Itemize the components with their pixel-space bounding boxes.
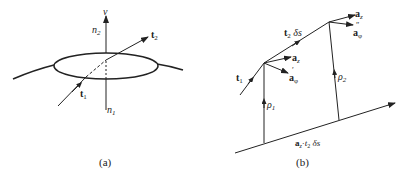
aphi2-vector xyxy=(329,22,353,25)
t1-arrow xyxy=(248,79,252,84)
rho1-label: ρ1 xyxy=(266,99,275,112)
aphi2-label: aφ″ xyxy=(353,21,362,40)
nu-label: ν xyxy=(103,6,108,17)
rho2-arrow xyxy=(334,72,335,78)
t1-arrow xyxy=(72,84,80,92)
t2-ds-arrow xyxy=(292,42,298,46)
n1-label: n1 xyxy=(107,104,116,117)
caption-b: (b) xyxy=(296,156,309,169)
az2-label: az xyxy=(355,8,363,21)
n2-label: n2 xyxy=(92,24,101,37)
diagram-b: t1 t2 δs az aφ′ az aφ″ ρ1 ρ2 az·t2 δs (b… xyxy=(235,8,395,169)
projection-label: az·t2 δs xyxy=(295,138,321,149)
aphi1-vector xyxy=(264,63,288,73)
diagram-a: ν n2 n1 t2 t1 (a) xyxy=(13,6,183,169)
t1-label: t1 xyxy=(236,72,243,85)
t1-label: t1 xyxy=(80,88,87,101)
surface-curve-left xyxy=(13,65,54,79)
az2-vector xyxy=(329,15,355,22)
aphi1-label: aφ′ xyxy=(289,66,298,85)
surface-curve-right xyxy=(157,64,183,70)
t-line-dashed xyxy=(86,60,106,77)
rho2-label: ρ2 xyxy=(337,71,347,84)
az1-label: az xyxy=(292,52,300,65)
t2-ds-label: t2 δs xyxy=(284,27,302,40)
t2-label: t2 xyxy=(151,29,158,42)
figure-canvas: ν n2 n1 t2 t1 (a) t1 t2 δs az aφ′ az a xyxy=(0,0,405,181)
caption-a: (a) xyxy=(99,156,112,169)
